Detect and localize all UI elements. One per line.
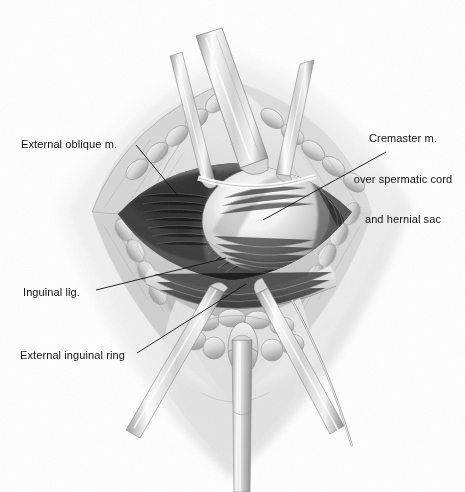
label-cremaster-line1: Cremaster m.: [349, 132, 457, 146]
label-inguinal-lig: Inguinal lig.: [23, 286, 80, 300]
label-cremaster-line3: and hernial sac: [349, 213, 457, 227]
label-cremaster: Cremaster m. over spermatic cord and her…: [349, 105, 457, 254]
label-external-inguinal-ring: External inguinal ring: [20, 349, 125, 363]
label-cremaster-line2: over spermatic cord: [349, 173, 457, 187]
medical-illustration-figure: External oblique m. Cremaster m. over sp…: [0, 0, 465, 492]
label-external-oblique: External oblique m.: [21, 138, 117, 152]
